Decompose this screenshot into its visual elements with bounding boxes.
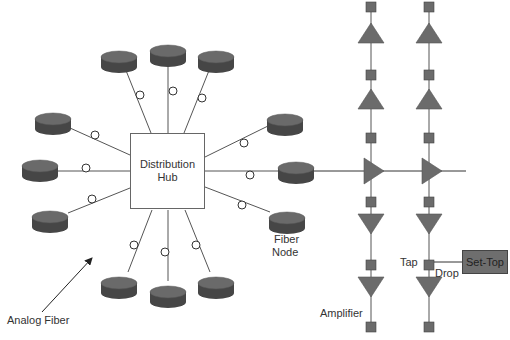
- optical-coupler-icon: [91, 131, 99, 139]
- optical-coupler-icon: [246, 171, 254, 179]
- optical-coupler-icon: [169, 87, 177, 95]
- tap-icon[interactable]: [366, 260, 376, 270]
- tap-icon[interactable]: [424, 197, 434, 207]
- set-top-box[interactable]: Set-Top: [462, 250, 508, 274]
- fiber-link: [205, 126, 268, 157]
- tap-icon[interactable]: [424, 322, 434, 332]
- tap-icon[interactable]: [424, 133, 434, 143]
- amplifier-icon[interactable]: [416, 89, 442, 109]
- fiber-node-icon[interactable]: [198, 51, 234, 73]
- fiber-node-icon[interactable]: [101, 277, 137, 299]
- tap-icon[interactable]: [366, 197, 376, 207]
- amplifier-icon[interactable]: [416, 214, 442, 234]
- tap-icon[interactable]: [424, 70, 434, 80]
- optical-coupler-icon: [82, 164, 90, 172]
- fiber-node-icon[interactable]: [278, 162, 314, 184]
- fiber-node-icon[interactable]: [267, 114, 303, 136]
- fiber-link: [205, 187, 270, 212]
- coax-plant: [314, 2, 466, 332]
- analog-fiber-arrow: [42, 258, 92, 312]
- trunk-amplifier-icon[interactable]: [364, 158, 384, 184]
- set-top-label: Set-Top: [466, 256, 504, 268]
- fiber-node-icon[interactable]: [150, 286, 186, 308]
- tap-icon[interactable]: [366, 322, 376, 332]
- fiber-node-label-line1: Fiber: [274, 233, 299, 246]
- drop-label: Drop: [435, 267, 459, 280]
- amplifier-icon[interactable]: [358, 214, 384, 234]
- fiber-node-icon[interactable]: [101, 51, 137, 73]
- hub-label-line1: Distribution: [140, 158, 195, 171]
- tap-icon[interactable]: [424, 260, 434, 270]
- optical-coupler-icon: [130, 241, 138, 249]
- optical-coupler-icon: [88, 195, 96, 203]
- hfc-network-diagram: [0, 0, 510, 340]
- fiber-node-icon[interactable]: [269, 212, 305, 234]
- tap-icon[interactable]: [366, 2, 376, 12]
- fiber-link: [128, 210, 152, 272]
- fiber-node-icon[interactable]: [198, 277, 234, 299]
- amplifier-icon[interactable]: [416, 23, 442, 43]
- fiber-node-icon[interactable]: [150, 45, 186, 67]
- fiber-link: [184, 68, 210, 133]
- fiber-link: [125, 68, 151, 133]
- fiber-node-icon[interactable]: [35, 113, 71, 135]
- amplifier-icon[interactable]: [358, 277, 384, 297]
- tap-icon[interactable]: [366, 70, 376, 80]
- optical-coupler-icon: [238, 201, 246, 209]
- fiber-link: [70, 128, 130, 155]
- fiber-node-icon[interactable]: [32, 211, 68, 233]
- amplifier-icon[interactable]: [416, 277, 442, 297]
- optical-coupler-icon: [192, 241, 200, 249]
- amplifier-icon[interactable]: [358, 23, 384, 43]
- amplifier-icon[interactable]: [358, 89, 384, 109]
- fiber-node-label-line2: Node: [272, 246, 298, 259]
- analog-fiber-label: Analog Fiber: [7, 314, 69, 327]
- optical-coupler-icon: [240, 139, 248, 147]
- optical-coupler-icon: [198, 94, 206, 102]
- fiber-link: [68, 188, 130, 213]
- optical-coupler-icon: [161, 248, 169, 256]
- fiber-node-icon[interactable]: [22, 160, 58, 182]
- tap-icon[interactable]: [366, 133, 376, 143]
- tap-icon[interactable]: [424, 2, 434, 12]
- hub-label-line2: Hub: [157, 171, 177, 184]
- tap-label: Tap: [400, 256, 418, 269]
- amplifier-label: Amplifier: [320, 307, 363, 320]
- trunk-amplifier-icon[interactable]: [422, 158, 442, 184]
- optical-coupler-icon: [136, 91, 144, 99]
- distribution-hub[interactable]: Distribution Hub: [130, 133, 205, 209]
